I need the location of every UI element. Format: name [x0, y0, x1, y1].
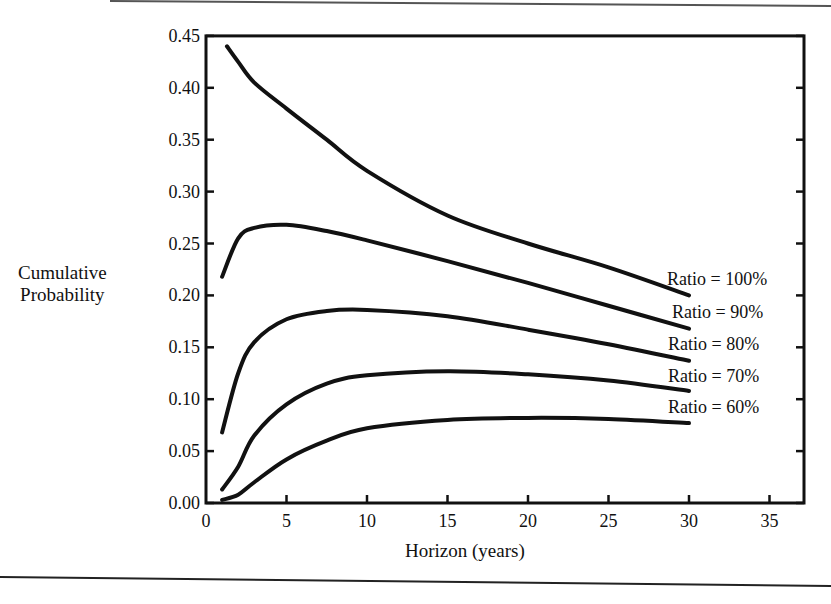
series-label: Ratio = 80% — [668, 334, 759, 354]
y-tick-label: 0.45 — [169, 26, 201, 46]
x-tick-label: 30 — [680, 511, 698, 531]
series-line — [222, 418, 689, 500]
x-tick-label: 10 — [358, 511, 376, 531]
y-tick-label: 0.10 — [169, 389, 201, 409]
plot-area: 0.000.050.100.150.200.250.300.350.400.45… — [169, 26, 805, 531]
series-label: Ratio = 60% — [668, 397, 759, 417]
y-tick-label: 0.35 — [169, 130, 201, 150]
bottom-rule — [0, 577, 831, 586]
y-tick-label: 0.25 — [169, 234, 201, 254]
x-tick-label: 5 — [282, 511, 291, 531]
x-tick-label: 0 — [202, 511, 211, 531]
y-axis-label-line-2: Probability — [18, 284, 107, 306]
series-label: Ratio = 100% — [667, 269, 767, 289]
y-axis-label: Cumulative Probability — [18, 262, 107, 306]
series-line — [222, 225, 689, 329]
y-tick-label: 0.00 — [169, 493, 201, 513]
series-line — [227, 46, 689, 295]
x-tick-label: 35 — [761, 511, 779, 531]
series-line — [222, 371, 689, 489]
series-label: Ratio = 70% — [668, 366, 759, 386]
x-tick-label: 20 — [519, 511, 537, 531]
y-tick-label: 0.30 — [169, 182, 201, 202]
y-tick-label: 0.40 — [169, 78, 201, 98]
y-tick-label: 0.05 — [169, 441, 201, 461]
series-label: Ratio = 90% — [672, 302, 763, 322]
y-tick-label: 0.20 — [169, 285, 201, 305]
y-tick-label: 0.15 — [169, 337, 201, 357]
line-chart: 0.000.050.100.150.200.250.300.350.400.45… — [0, 0, 831, 604]
top-rule — [110, 1, 831, 6]
x-tick-label: 15 — [439, 511, 457, 531]
x-axis-label: Horizon (years) — [405, 540, 525, 562]
y-axis-label-line-1: Cumulative — [18, 262, 107, 284]
x-tick-label: 25 — [600, 511, 618, 531]
